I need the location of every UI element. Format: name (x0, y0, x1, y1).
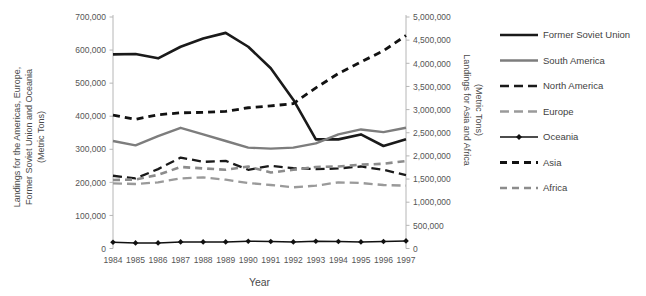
legend-item-label: Europe (543, 106, 574, 117)
x-axis-tick-label: 1990 (239, 255, 258, 265)
series-marker (245, 238, 251, 244)
left-axis-title-line2: Former Soviet Union and Oceania (24, 69, 34, 205)
legend-item[interactable]: South America (500, 55, 605, 66)
series-marker (336, 239, 342, 245)
legend-item-label: Oceania (543, 131, 579, 142)
right-axis-tick-label: 1,000,000 (413, 197, 451, 207)
left-axis-tick-label: 700,000 (75, 12, 106, 22)
left-axis-tick-label: 200,000 (75, 178, 106, 188)
series-group (110, 33, 409, 246)
series-marker (313, 238, 319, 244)
legend-item[interactable]: Europe (500, 106, 574, 117)
legend-item-label: Africa (543, 182, 568, 193)
legend-item[interactable]: Oceania (500, 131, 579, 142)
right-axis-tick-label: 2,500,000 (413, 128, 451, 138)
right-axis-ticks: 0500,0001,000,0001,500,0002,000,0002,500… (406, 12, 451, 254)
left-axis-tick-label: 300,000 (75, 144, 106, 154)
right-axis-tick-label: 5,000,000 (413, 12, 451, 22)
right-axis-tick-label: 3,000,000 (413, 105, 451, 115)
legend-item[interactable]: Asia (500, 157, 562, 168)
legend-item-label: North America (543, 80, 604, 91)
series-line (113, 128, 406, 149)
x-axis-tick-label: 1992 (284, 255, 303, 265)
series-marker (110, 239, 116, 245)
legend: Former Soviet UnionSouth AmericaNorth Am… (500, 29, 630, 193)
legend-item[interactable]: Former Soviet Union (500, 29, 630, 40)
series-marker (223, 239, 229, 245)
right-axis-tick-label: 4,500,000 (413, 35, 451, 45)
x-axis-tick-label: 1993 (306, 255, 325, 265)
x-axis-tick-label: 1989 (216, 255, 235, 265)
legend-item-label: Former Soviet Union (543, 29, 630, 40)
left-axis-ticks: 0100,000200,000300,000400,000500,000600,… (75, 12, 113, 254)
x-axis-tick-label: 1991 (261, 255, 280, 265)
series-marker (291, 239, 297, 245)
legend-item[interactable]: Africa (500, 182, 568, 193)
x-axis-tick-label: 1988 (194, 255, 213, 265)
series-marker (178, 239, 184, 245)
series-marker (200, 239, 206, 245)
series-line (113, 36, 406, 120)
right-axis-tick-label: 0 (413, 244, 418, 254)
chart-svg: 0100,000200,000300,000400,000500,000600,… (0, 0, 646, 296)
right-axis-tick-label: 3,500,000 (413, 82, 451, 92)
x-axis-tick-label: 1987 (171, 255, 190, 265)
series-line (113, 158, 406, 179)
left-axis-tick-label: 400,000 (75, 111, 106, 121)
x-axis-tick-label: 1996 (374, 255, 393, 265)
series-marker (155, 240, 161, 246)
left-axis-tick-label: 600,000 (75, 45, 106, 55)
x-axis-tick-label: 1986 (149, 255, 168, 265)
right-axis-title-line1: Landings for Asia and Africa (462, 54, 472, 166)
left-axis-title-line1: Landings for the Americas, Europe, (12, 67, 22, 208)
series-line (113, 177, 406, 187)
x-axis-ticks: 1984198519861987198819891990199119921993… (104, 255, 416, 265)
legend-item-label: South America (543, 55, 605, 66)
x-axis-tick-label: 1984 (104, 255, 123, 265)
x-axis-title: Year (249, 276, 271, 288)
series-marker (268, 239, 274, 245)
left-axis-tick-label: 0 (101, 244, 106, 254)
series-marker (381, 239, 387, 245)
legend-item-label: Asia (543, 157, 562, 168)
x-axis-tick-label: 1997 (397, 255, 416, 265)
left-axis-tick-label: 100,000 (75, 211, 106, 221)
legend-item[interactable]: North America (500, 80, 604, 91)
left-axis-tick-label: 500,000 (75, 78, 106, 88)
x-axis-tick-label: 1995 (351, 255, 370, 265)
x-axis-tick-label: 1994 (329, 255, 348, 265)
series-marker (403, 238, 409, 244)
x-axis-tick-label: 1985 (126, 255, 145, 265)
legend-marker (516, 134, 522, 140)
right-axis-tick-label: 2,000,000 (413, 151, 451, 161)
chart-container: 0100,000200,000300,000400,000500,000600,… (0, 0, 646, 296)
series-marker (358, 239, 364, 245)
right-axis-tick-label: 4,000,000 (413, 59, 451, 69)
right-axis-tick-label: 500,000 (413, 221, 444, 231)
right-axis-title-line2: (Metric Tons) (474, 84, 484, 136)
left-axis-title-line3: (Metric Tons) (36, 111, 46, 163)
series-marker (133, 240, 139, 246)
right-axis-tick-label: 1,500,000 (413, 174, 451, 184)
